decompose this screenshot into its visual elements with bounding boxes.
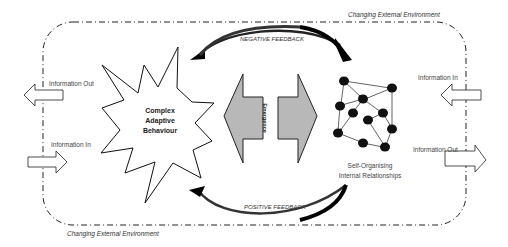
environment-label-top: Changing External Environment [348, 11, 440, 18]
negative-feedback-arrow [190, 27, 352, 62]
emergence-label: Emergence [262, 103, 268, 133]
left-info-in-label: Information In [51, 141, 91, 148]
right-info-in-arrow [441, 84, 481, 106]
network-nodes [333, 77, 397, 152]
complex-adaptive-label: Complex Adaptive Behaviour [132, 106, 188, 136]
environment-label-bottom: Changing External Environment [67, 230, 159, 237]
self-organising-label: Self-Organising Internal Relationships [330, 161, 410, 181]
left-info-out-arrow [24, 84, 63, 106]
left-info-out-label: Information Out [49, 80, 94, 87]
self-organising-line1: Self-Organising [330, 161, 410, 171]
positive-feedback-arrow [189, 185, 346, 220]
complex-label-line2: Adaptive [132, 116, 188, 126]
negative-feedback-label: NEGATIVE FEEDBACK [240, 36, 304, 42]
complex-label-line3: Behaviour [132, 126, 188, 136]
complex-label-line1: Complex [132, 106, 188, 116]
left-info-in-arrow [28, 151, 67, 173]
self-organising-line2: Internal Relationships [330, 171, 410, 181]
right-info-out-label: Information Out [413, 146, 458, 153]
emergence-left-arrow [224, 74, 263, 163]
right-info-in-label: Information In [418, 74, 458, 81]
positive-feedback-label: POSITIVE FEEDBACK [244, 204, 306, 210]
emergence-right-arrow [278, 74, 317, 163]
